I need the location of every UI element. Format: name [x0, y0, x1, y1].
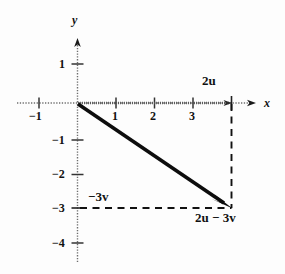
- vector-neg3v-label: −3v: [88, 190, 108, 203]
- y-tick-label--4: −4: [52, 237, 64, 249]
- vector-diagram-figure: y x −1 1 2 3 1 −1 −2 −3 −4 2u −3v 2u − 3…: [0, 0, 285, 274]
- x-tick-label--1: −1: [29, 110, 41, 122]
- y-tick-label-1: 1: [59, 58, 65, 70]
- y-tick-label--2: −2: [52, 168, 64, 180]
- x-tick-label-2: 2: [150, 110, 156, 122]
- x-tick-label-3: 3: [189, 110, 195, 122]
- resultant-vector-label: 2u − 3v: [195, 211, 236, 224]
- x-tick-label-1: 1: [112, 110, 118, 122]
- y-tick-label--3: −3: [52, 202, 64, 214]
- vector-2u-label: 2u: [202, 74, 216, 87]
- y-tick-label--1: −1: [52, 134, 64, 146]
- y-axis: [74, 38, 81, 262]
- y-axis-label: y: [72, 14, 77, 26]
- diagram-canvas: [0, 0, 285, 274]
- x-axis-label: x: [264, 97, 270, 109]
- x-axis-arrowhead-icon: [247, 100, 256, 107]
